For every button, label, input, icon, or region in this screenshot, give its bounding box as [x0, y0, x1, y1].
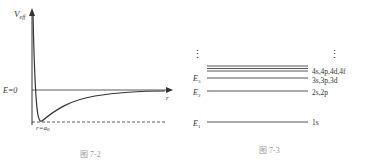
effective-potential-plot: Veff E=0 r r=a0 [0, 0, 180, 163]
x-axis-label: r [166, 94, 169, 102]
energy-levels-diagram: ⋮ ⋮ E3 E2 E1 4s,4p,4d,4f 3s,3p,3d 2s,2p … [180, 0, 365, 163]
figure-caption: 图 7-3 [259, 144, 280, 155]
effective-potential-figure: Veff E=0 r r=a0 图 7-2 [0, 0, 180, 163]
energy-levels-figure: ⋮ ⋮ E3 E2 E1 4s,4p,4d,4f 3s,3p,3d 2s,2p … [180, 0, 365, 163]
level-3-label: E3 [192, 74, 201, 84]
level-2-states: 2s,2p [312, 88, 328, 97]
level-2-label: E2 [192, 88, 201, 98]
level-3-states: 3s,3p,3d [312, 76, 338, 85]
x-axis-arrow-icon [166, 87, 173, 93]
level-4-states: 4s,4p,4d,4f [312, 67, 346, 76]
potential-curve [33, 14, 165, 121]
minimum-radius-label: r=a0 [36, 124, 50, 132]
y-axis-arrow-icon [29, 8, 35, 16]
level-1-states: 1s [312, 118, 319, 127]
level-1-label: E1 [192, 119, 201, 129]
figure-caption: 图 7-2 [80, 148, 101, 159]
y-axis-label: Veff [14, 9, 27, 20]
ellipsis-left: ⋮ [192, 48, 203, 60]
zero-energy-label: E=0 [2, 86, 17, 95]
ellipsis-right: ⋮ [329, 48, 340, 60]
